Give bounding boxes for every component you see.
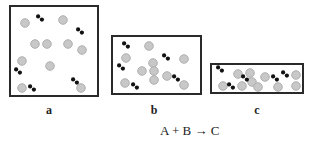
atom-icon bbox=[78, 46, 87, 55]
particle-layer bbox=[0, 0, 312, 153]
molecule-icon bbox=[281, 70, 289, 77]
label-a: a bbox=[46, 104, 52, 116]
molecule-icon bbox=[71, 77, 79, 84]
atom-icon bbox=[46, 62, 55, 71]
atom-icon bbox=[77, 84, 86, 93]
atom-icon bbox=[122, 54, 131, 63]
atom-icon bbox=[180, 55, 189, 64]
atom-icon bbox=[274, 83, 283, 92]
reaction-equation: A + B → C bbox=[160, 124, 219, 137]
atom-icon bbox=[219, 82, 228, 91]
molecule-icon bbox=[14, 67, 22, 74]
molecule-icon bbox=[172, 74, 180, 81]
molecule-icon bbox=[162, 53, 170, 60]
atom-icon bbox=[121, 79, 130, 88]
atom-icon bbox=[43, 40, 52, 49]
atom-icon bbox=[138, 67, 147, 76]
atom-icon bbox=[59, 16, 68, 25]
molecule-icon bbox=[216, 65, 224, 72]
atom-icon bbox=[234, 70, 243, 79]
atom-icon bbox=[18, 57, 27, 66]
atom-icon bbox=[150, 76, 159, 85]
atom-icon bbox=[238, 82, 247, 91]
atom-icon bbox=[150, 67, 159, 76]
molecule-icon bbox=[131, 82, 139, 89]
molecule-icon bbox=[36, 14, 44, 21]
atom-icon bbox=[163, 72, 172, 81]
molecule-icon bbox=[227, 82, 235, 89]
atom-icon bbox=[254, 83, 263, 92]
atom-icon bbox=[261, 73, 270, 82]
atom-icon bbox=[180, 81, 189, 90]
atom-icon bbox=[18, 84, 27, 93]
atom-icon bbox=[292, 71, 301, 80]
molecule-icon bbox=[271, 74, 279, 81]
label-b: b bbox=[151, 104, 158, 116]
atom-icon bbox=[292, 82, 301, 91]
atom-icon bbox=[246, 69, 255, 78]
atom-icon bbox=[149, 59, 158, 68]
atom-icon bbox=[31, 40, 40, 49]
atom-icon bbox=[64, 40, 73, 49]
atom-icon bbox=[145, 42, 154, 51]
molecule-icon bbox=[122, 41, 130, 48]
atom-icon bbox=[21, 19, 30, 28]
molecule-icon bbox=[117, 63, 125, 70]
label-c: c bbox=[254, 104, 259, 116]
molecule-icon bbox=[76, 27, 84, 34]
molecule-icon bbox=[28, 84, 36, 91]
